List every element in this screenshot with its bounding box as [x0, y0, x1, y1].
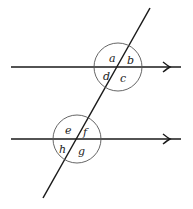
transversal-line: [43, 8, 150, 198]
angle-label-c: c: [120, 72, 126, 85]
angle-label-g: g: [78, 145, 85, 158]
angle-label-e: e: [65, 124, 72, 137]
angle-label-a: a: [109, 52, 116, 65]
top-parallel-line: [11, 62, 181, 72]
angle-label-b: b: [127, 54, 134, 67]
angle-label-d: d: [103, 70, 110, 83]
bottom-parallel-line: [11, 134, 181, 144]
angle-label-h: h: [59, 143, 66, 156]
angle-label-f: f: [82, 126, 89, 139]
parallel-lines-diagram: a b d c e f h g: [0, 0, 193, 209]
